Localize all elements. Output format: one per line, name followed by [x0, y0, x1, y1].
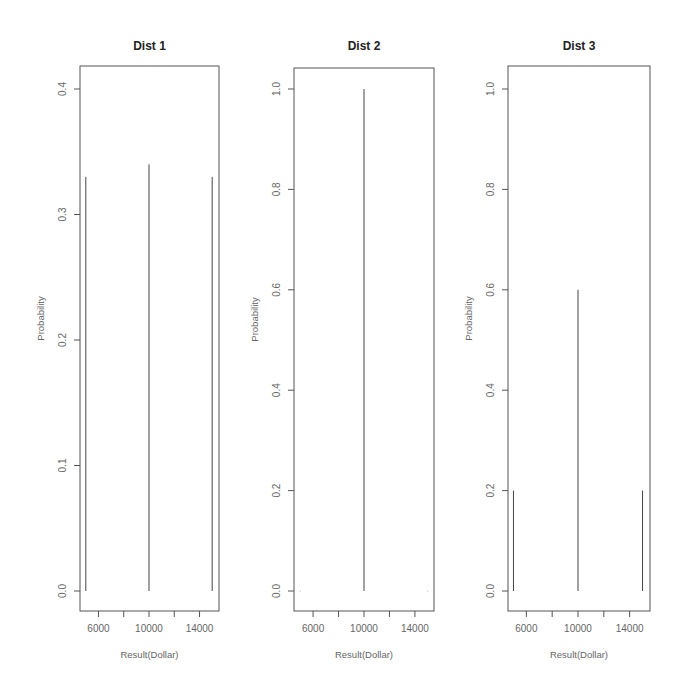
y-axis-label: Probability [463, 296, 474, 341]
y-tick-label: 0.4 [271, 383, 282, 397]
y-axis-label: Probability [249, 297, 260, 342]
plot-frame [508, 66, 650, 611]
x-tick-label: 14000 [401, 623, 429, 634]
y-tick-label: 0.4 [57, 82, 68, 96]
x-tick-label: 14000 [616, 623, 644, 634]
y-tick-label: 0.0 [271, 584, 282, 598]
x-tick-label: 10000 [350, 623, 378, 634]
x-tick-label: 6000 [302, 623, 325, 634]
y-tick-label: 0.0 [485, 584, 496, 598]
y-tick-label: 0.1 [57, 458, 68, 472]
y-tick-label: 0.0 [57, 584, 68, 598]
y-tick-label: 0.8 [271, 182, 282, 196]
zero-probability-point [300, 590, 301, 591]
panel-title: Dist 1 [133, 39, 166, 53]
x-axis-label: Result(Dollar) [335, 649, 393, 660]
y-tick-label: 0.2 [271, 483, 282, 497]
x-axis-label: Result(Dollar) [550, 649, 608, 660]
panel-2: Dist 20.00.20.40.60.81.060001000014000Re… [249, 39, 434, 660]
y-tick-label: 1.0 [271, 82, 282, 96]
x-axis-label: Result(Dollar) [120, 649, 178, 660]
y-tick-label: 0.2 [57, 333, 68, 347]
figure: Dist 10.00.10.20.30.460001000014000Resul… [0, 0, 685, 696]
x-tick-label: 10000 [135, 623, 163, 634]
panel-title: Dist 3 [563, 39, 596, 53]
x-tick-label: 6000 [515, 623, 538, 634]
y-tick-label: 0.2 [485, 483, 496, 497]
y-tick-label: 0.4 [485, 383, 496, 397]
panel-1: Dist 10.00.10.20.30.460001000014000Resul… [35, 39, 219, 660]
x-tick-label: 6000 [87, 623, 110, 634]
panel-title: Dist 2 [348, 39, 381, 53]
zero-probability-point [427, 590, 428, 591]
y-tick-label: 0.6 [271, 282, 282, 296]
y-axis-label: Probability [35, 296, 46, 341]
panel-3: Dist 30.00.20.40.60.81.060001000014000Re… [463, 39, 650, 660]
x-tick-label: 14000 [186, 623, 214, 634]
y-tick-label: 0.3 [57, 207, 68, 221]
y-tick-label: 0.8 [485, 182, 496, 196]
x-tick-label: 10000 [564, 623, 592, 634]
y-tick-label: 1.0 [485, 82, 496, 96]
y-tick-label: 0.6 [485, 282, 496, 296]
